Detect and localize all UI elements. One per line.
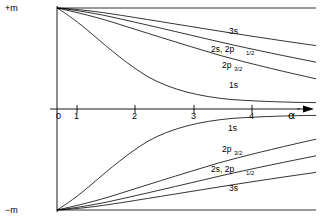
curve-2p32-lower — [57, 139, 316, 210]
curve-1s-lower — [57, 115, 316, 210]
curve-label-2s-2p12-lower-group: 2s, 2p 1/2 — [211, 164, 255, 176]
x-axis-arrowhead — [303, 106, 314, 113]
curve-label-3s-upper: 3s — [229, 26, 238, 36]
curve-label-2p32-upper-sub: 3/2 — [234, 66, 243, 72]
curve-label-1s-upper: 1s — [229, 80, 238, 90]
x-axis-label: α — [288, 109, 295, 122]
curve-label-2s-2p12-upper-group: 2s, 2p 1/2 — [211, 44, 255, 56]
curve-label-2p32-upper-group: 2p 3/2 — [222, 60, 243, 72]
curve-label-1s-lower: 1s — [228, 123, 237, 133]
x-tick-label-0: 0 — [56, 111, 61, 121]
energy-levels-chart: +m −m 0 1 2 3 4 α ″ 3s 2s, 2p 1/2 2p 3/2… — [0, 0, 321, 219]
x-axis-label-prime: ″ — [297, 106, 300, 115]
curve-label-2s-2p12-upper: 2s, 2p — [211, 44, 234, 54]
x-tick-label-4: 4 — [249, 111, 254, 121]
curve-label-2p32-lower-group: 2p 3/2 — [222, 144, 243, 156]
curve-label-2s-2p12-lower: 2s, 2p — [211, 164, 234, 174]
x-tick-label-2: 2 — [132, 111, 137, 121]
curve-2s-2p12-lower — [57, 156, 316, 210]
curve-label-2s-2p12-lower-sub: 1/2 — [246, 170, 255, 176]
figure-container: +m −m 0 1 2 3 4 α ″ 3s 2s, 2p 1/2 2p 3/2… — [0, 0, 321, 219]
curve-label-2p32-upper: 2p — [222, 60, 232, 70]
y-axis-top-label: +m — [5, 3, 18, 13]
curve-label-2s-2p12-upper-sub: 1/2 — [246, 50, 255, 56]
y-axis-bottom-label: −m — [5, 205, 18, 215]
curve-1s-upper — [57, 8, 316, 103]
curve-2s-2p12-upper — [57, 8, 316, 62]
x-tick-label-3: 3 — [191, 111, 196, 121]
x-tick-label-1: 1 — [74, 111, 79, 121]
curve-label-2p32-lower-sub: 3/2 — [234, 150, 243, 156]
curve-label-2p32-lower: 2p — [222, 144, 232, 154]
curve-2p32-upper — [57, 8, 316, 79]
curve-label-3s-lower: 3s — [229, 183, 238, 193]
